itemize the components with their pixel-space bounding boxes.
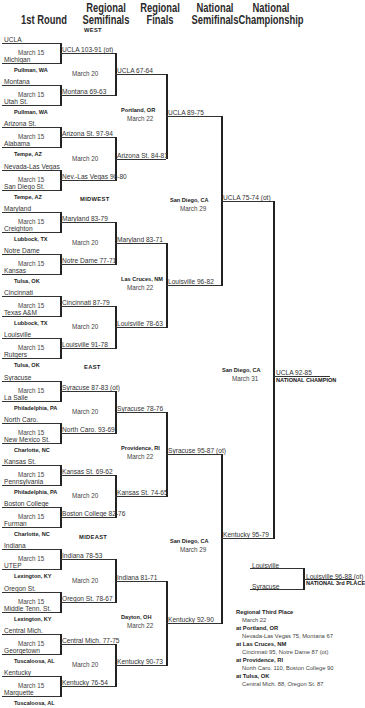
bracket-line	[2, 296, 60, 297]
game-date: March 15	[18, 133, 44, 140]
bracket-line	[60, 306, 115, 307]
bracket-line	[115, 159, 166, 160]
result-label: UCLA 67-64	[117, 67, 153, 74]
regional-third-site: at Providence, RI	[236, 657, 283, 663]
bracket-line	[60, 559, 115, 560]
bracket-line	[60, 264, 115, 265]
regional-third-site: at Portland, OR	[236, 625, 278, 631]
bracket-line	[2, 569, 60, 570]
result-label: Indiana 81-71	[117, 574, 157, 581]
bracket-line	[60, 95, 115, 96]
regional-third-result: Central Mich. 88, Oregon St. 87	[236, 680, 333, 688]
team-name: Marquette	[4, 689, 34, 696]
result-label: Kansas St. 74-65	[117, 489, 168, 496]
header-national-championship: National Championship	[236, 2, 306, 26]
regional-final-date: March 22	[127, 115, 153, 122]
game-date: March 20	[72, 661, 98, 668]
team-name: Nevada-Las Vegas	[4, 163, 60, 170]
bracket-line	[2, 465, 60, 466]
regional-final-site: Portland, OR	[121, 107, 155, 114]
game-date: March 15	[18, 387, 44, 394]
team-name: Alabama	[4, 140, 30, 147]
result-label: Nev.-Las Vegas 90-80	[62, 173, 127, 180]
bracket-line	[166, 454, 221, 455]
game-date: March 15	[18, 218, 44, 225]
team-name: Kansas	[4, 267, 26, 274]
header-line: Championship	[236, 14, 306, 26]
bracket-line	[2, 63, 60, 64]
result-label: Oregon St. 78-67	[62, 595, 113, 602]
site-label: Philadelphia, PA	[14, 489, 57, 496]
bracket-line	[2, 423, 60, 424]
bracket-line	[166, 623, 221, 624]
bracket-line	[2, 170, 60, 171]
header-regional-finals: Regional Finals	[130, 2, 189, 26]
team-name: UCLA	[4, 36, 22, 43]
result-label: Kentucky 92-90	[168, 616, 214, 623]
game-date: March 20	[72, 70, 98, 77]
site-label: Pullman, WA	[14, 109, 48, 116]
regional-third-place-notes: Regional Third Place March 22 at Portlan…	[236, 608, 333, 688]
result-label: Notre Dame 77-71	[62, 257, 116, 264]
third-place-label: NATIONAL 3rd PLACE	[306, 580, 365, 586]
team-name: North Caro.	[4, 416, 38, 423]
bracket-line	[2, 485, 60, 486]
team-name: Creighton	[4, 225, 33, 232]
game-date: March 20	[72, 239, 98, 246]
team-name: New Mexico St.	[4, 436, 50, 443]
result-label: UCLA 103-91 (ot)	[62, 46, 113, 53]
site-label: Lexington, KY	[14, 573, 52, 580]
team-name: Michigan	[4, 56, 30, 63]
result-label: Kansas St. 69-62	[62, 468, 113, 475]
team-name: Furman	[4, 520, 27, 527]
result-label: Louisville 91-78	[62, 341, 108, 348]
bracket-line	[60, 137, 115, 138]
bracket-line	[2, 612, 60, 613]
bracket-line	[2, 85, 60, 86]
game-date: March 15	[18, 344, 44, 351]
bracket-line	[2, 212, 60, 213]
header-1st-round: 1st Round	[14, 14, 73, 26]
bracket-line	[166, 116, 221, 117]
game-date: March 15	[18, 555, 44, 562]
bracket-line	[2, 527, 60, 528]
region-midwest: MIDWEST	[80, 196, 109, 203]
bracket-line	[2, 147, 60, 148]
regional-final-date: March 22	[127, 622, 153, 629]
result-label: Maryland 83-79	[62, 215, 108, 222]
bracket-line	[2, 549, 60, 550]
bracket-line	[2, 316, 60, 317]
regional-final-date: March 22	[127, 453, 153, 460]
bracket-line	[221, 538, 273, 539]
regional-third-result: North Caro. 110, Boston College 90	[236, 664, 333, 672]
site-label: Lexington, KY	[14, 616, 52, 623]
result-label: Arizona St. 84-81	[117, 152, 168, 159]
game-date: March 15	[18, 260, 44, 267]
result-label: Kentucky 76-54	[62, 679, 108, 686]
regional-third-site: at Tulsa, OK	[236, 673, 269, 679]
site-label: Tulsa, OK	[14, 278, 40, 285]
result-label: Kentucky 90-73	[117, 658, 163, 665]
game-date: March 15	[18, 598, 44, 605]
result-label: Cincinnati 87-79	[62, 299, 110, 306]
regional-third-result: Nevada-Las Vegas 75, Montana 67	[236, 632, 333, 640]
national-semi-date-2: March 29	[180, 546, 206, 553]
bracket-line	[2, 401, 60, 402]
result-label: UCLA 75-74 (ot)	[223, 194, 271, 201]
result-label: Boston College 82-76	[62, 510, 125, 517]
regional-third-title: Regional Third Place	[236, 609, 293, 615]
team-name: Rutgers	[4, 351, 27, 358]
result-label: UCLA 89-75	[168, 109, 204, 116]
result-label: Syracuse 78-76	[117, 405, 163, 412]
game-date: March 15	[18, 176, 44, 183]
region-west: WEST	[84, 27, 102, 34]
regional-third-date: March 22	[236, 616, 333, 624]
result-label: Maryland 83-71	[117, 236, 163, 243]
regional-final-site: Dayton, OH	[121, 614, 151, 621]
team-name: Pennsylvania	[4, 478, 43, 485]
game-date: March 15	[18, 682, 44, 689]
bracket-line	[2, 654, 60, 655]
regional-final-site: Providence, RI	[121, 445, 160, 452]
team-name: Texas A&M	[4, 309, 37, 316]
bracket-line	[2, 274, 60, 275]
